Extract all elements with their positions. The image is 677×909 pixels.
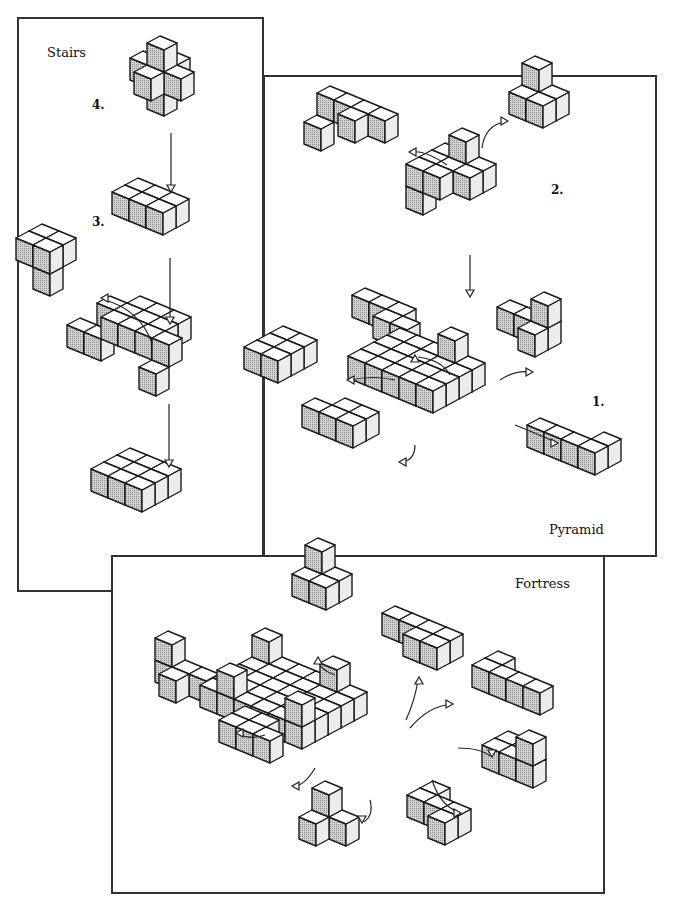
pyramid-step-1: 1. [592, 395, 605, 409]
pyramid-title: Pyramid [549, 522, 604, 537]
stairs-step-3: 3. [92, 215, 105, 229]
pyramid-panel [263, 75, 657, 557]
stairs-panel-cover [19, 19, 262, 590]
fortress-panel [111, 555, 605, 894]
stairs-step-1: 1. [91, 470, 104, 484]
cube-top-face [522, 56, 552, 70]
fortress-title: Fortress [515, 576, 570, 591]
stairs-step-4: 4. [92, 98, 105, 112]
stairs-title: Stairs [47, 45, 86, 60]
stairs-step-2: 2. [90, 327, 103, 341]
pyramid-step-2: 2. [551, 183, 564, 197]
